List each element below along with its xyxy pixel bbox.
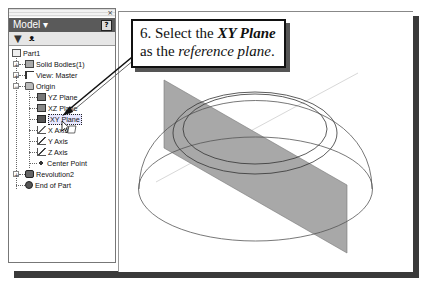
tree-connector (29, 152, 37, 153)
tree-item-label: Solid Bodies(1) (36, 60, 85, 69)
tree-item-yz-plane[interactable]: YZ Plane (37, 92, 78, 103)
xy-plane-shape[interactable] (164, 80, 347, 253)
axis-icon (37, 126, 46, 134)
folder-icon (25, 82, 34, 90)
callout-line-1: 6. Select the XY Plane (140, 24, 276, 42)
model-tree: + + − + Part1 Solid Bodies(1) View: Mast… (9, 46, 115, 262)
tree-connector (29, 163, 37, 164)
tree-item-end-of-part[interactable]: End of Part (25, 180, 71, 191)
browser-title-dropdown[interactable]: Model ▾ (13, 18, 48, 32)
graphics-window-shadow-right (412, 16, 419, 278)
callout-text: as the (140, 43, 178, 59)
point-icon (37, 159, 45, 167)
tree-item-label: Part1 (23, 49, 40, 58)
help-icon[interactable]: ? (101, 20, 112, 31)
plane-icon (37, 104, 46, 112)
revolution-icon (25, 170, 34, 178)
view-icon (25, 71, 34, 79)
instruction-callout: 6. Select the XY Plane as the reference … (131, 19, 286, 68)
tree-connector (29, 108, 37, 109)
callout-emphasis: XY Plane (217, 25, 275, 41)
axis-icon (37, 137, 46, 145)
tree-item-xz-plane[interactable]: XZ Plane (37, 103, 78, 114)
plane-icon (37, 115, 46, 123)
tree-item-label: Revolution2 (36, 170, 74, 179)
tree-item-label: YZ Plane (48, 93, 78, 102)
tree-item-label: Z Axis (48, 148, 68, 157)
expand-toggle[interactable]: + (13, 171, 19, 177)
tree-connector (16, 185, 25, 186)
tree-item-label: Center Point (47, 159, 87, 168)
tree-item-label: Y Axis (48, 137, 68, 146)
tree-item-label: Origin (36, 82, 55, 91)
part-icon (12, 49, 21, 57)
tree-item-label: XZ Plane (48, 104, 78, 113)
tree-item-solid-bodies[interactable]: Solid Bodies(1) (25, 59, 85, 70)
tree-item-view-master[interactable]: View: Master (25, 70, 77, 81)
tree-connector (29, 119, 37, 120)
plane-icon (37, 93, 46, 101)
axis-icon (37, 148, 46, 156)
mouse-cursor-icon (61, 120, 79, 136)
tree-item-z-axis[interactable]: Z Axis (37, 147, 68, 158)
filter-icon[interactable]: ▼ (14, 33, 22, 44)
tree-item-revolution2[interactable]: Revolution2 (25, 169, 74, 180)
collapse-toggle[interactable]: − (13, 83, 19, 89)
tree-connector (29, 97, 37, 98)
expand-toggle[interactable]: + (13, 72, 19, 78)
tree-item-part1[interactable]: Part1 (12, 48, 40, 59)
solid-bodies-icon (25, 60, 34, 68)
model-browser-panel: × Model ▾ ? ▼ ᴥ + + − + Part1 Solid (8, 8, 116, 263)
callout-text: . (271, 43, 275, 59)
callout-emphasis: reference plane (178, 43, 271, 59)
tree-item-center-point[interactable]: Center Point (37, 158, 87, 169)
binoculars-icon[interactable]: ᴥ (29, 33, 35, 44)
panel-close-icon[interactable]: × (107, 9, 113, 17)
panel-grip[interactable]: × (9, 9, 115, 17)
tree-connector (29, 89, 30, 168)
tree-connector (29, 141, 37, 142)
callout-line-2: as the reference plane. (140, 42, 275, 60)
end-of-part-icon (25, 181, 33, 189)
tree-connector (29, 130, 37, 131)
tree-item-label: End of Part (35, 181, 71, 190)
expand-toggle[interactable]: + (13, 61, 19, 67)
browser-title-bar[interactable]: Model ▾ ? (9, 18, 115, 32)
tree-item-label: View: Master (36, 71, 77, 80)
graphics-window-shadow-bottom (14, 271, 419, 278)
tree-item-origin[interactable]: Origin (25, 81, 55, 92)
tree-item-y-axis[interactable]: Y Axis (37, 136, 68, 147)
browser-toolbar: ▼ ᴥ (9, 32, 115, 46)
callout-text: 6. Select the (140, 25, 217, 41)
